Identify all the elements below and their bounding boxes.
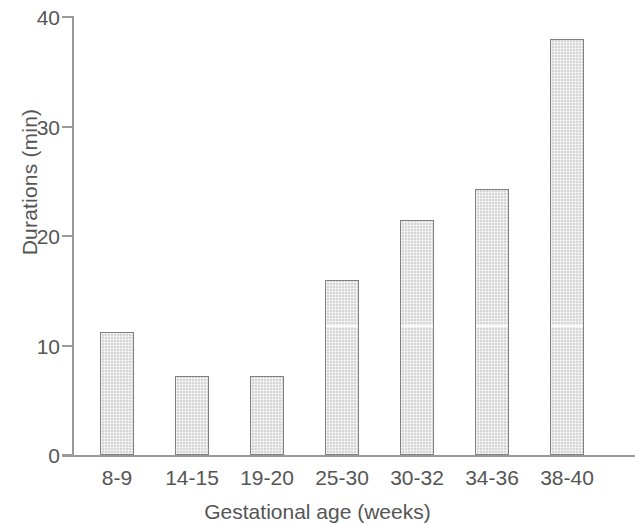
bar — [250, 376, 284, 455]
y-axis-tick — [62, 454, 74, 456]
x-axis-line — [62, 455, 635, 457]
y-axis-tick — [62, 235, 74, 237]
y-axis-tick-label-text: 40 — [37, 6, 60, 30]
scan-artifact-line — [326, 325, 358, 327]
bar-chart-figure: Durations (min) 010203040 8-914-1519-202… — [0, 0, 635, 524]
scan-artifact-line — [551, 325, 583, 327]
y-axis-tick-label-text: 30 — [37, 116, 60, 140]
y-axis-tick — [62, 126, 74, 128]
bar — [475, 189, 509, 455]
x-axis-tick-label: 8-9 — [77, 466, 157, 490]
x-axis-tick-label: 14-15 — [152, 466, 232, 490]
bar — [400, 220, 434, 455]
x-axis-label: Gestational age (weeks) — [0, 500, 635, 524]
bar — [550, 39, 584, 455]
scan-artifact-line — [401, 325, 433, 327]
y-axis-tick — [62, 16, 74, 18]
x-axis-tick-label: 25-30 — [302, 466, 382, 490]
bar — [325, 280, 359, 455]
x-axis-tick-label: 30-32 — [377, 466, 457, 490]
y-axis-tick-label-text: 0 — [48, 444, 60, 468]
y-axis-tick-label-text: 20 — [37, 225, 60, 249]
x-axis-tick-label: 34-36 — [452, 466, 532, 490]
plot-area: 010203040 8-914-1519-2025-3030-3234-3638… — [0, 0, 635, 524]
bar — [100, 332, 134, 455]
y-axis-tick — [62, 345, 74, 347]
bar — [175, 376, 209, 455]
x-axis-tick-label: 38-40 — [527, 466, 607, 490]
x-axis-tick-label: 19-20 — [227, 466, 307, 490]
y-axis-tick-label-text: 10 — [37, 335, 60, 359]
scan-artifact-line — [476, 325, 508, 327]
